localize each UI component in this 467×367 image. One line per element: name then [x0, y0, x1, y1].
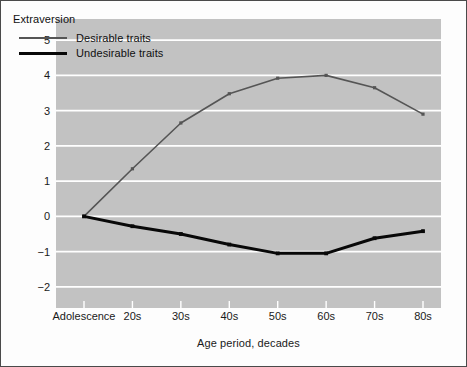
- y-tick-label: 2: [44, 140, 50, 152]
- data-point: [227, 243, 231, 247]
- legend-item-undesirable: Undesirable traits: [13, 47, 163, 59]
- data-point: [228, 92, 231, 95]
- y-tick-label: 4: [44, 69, 50, 81]
- x-axis-label: Age period, decades: [56, 337, 441, 349]
- legend-title: Extraversion: [13, 13, 163, 25]
- data-point: [179, 232, 183, 236]
- data-point: [373, 236, 377, 240]
- y-tick-label: 3: [44, 105, 50, 117]
- legend-label-desirable: Desirable traits: [76, 32, 151, 44]
- x-tick-label: 20s: [124, 310, 142, 322]
- x-tick-label: Adolescence: [53, 310, 116, 322]
- legend-line-desirable-icon: [19, 37, 67, 39]
- x-tick-label: 60s: [317, 310, 335, 322]
- legend-line-undesirable-icon: [19, 52, 67, 55]
- data-point: [421, 229, 425, 233]
- plot-svg: [56, 19, 441, 308]
- legend-label-undesirable: Undesirable traits: [76, 47, 163, 59]
- legend-item-desirable: Desirable traits: [13, 32, 163, 44]
- y-tick-label: −2: [37, 281, 50, 293]
- data-point: [324, 251, 328, 255]
- y-tick-label: −1: [37, 246, 50, 258]
- y-tick-label: 0: [44, 210, 50, 222]
- data-point: [276, 251, 280, 255]
- data-point: [131, 224, 135, 228]
- data-point: [179, 121, 182, 124]
- y-tick-label: 1: [44, 175, 50, 187]
- data-point: [421, 113, 424, 116]
- data-point: [131, 167, 134, 170]
- x-tick-label: 40s: [220, 310, 238, 322]
- x-tick-label: 30s: [172, 310, 190, 322]
- legend: Extraversion Desirable traits Undesirabl…: [13, 13, 163, 62]
- data-point: [276, 77, 279, 80]
- x-tick-label: 70s: [366, 310, 384, 322]
- chart-figure: Perceived change over adulthood 543210−1…: [0, 0, 467, 367]
- data-point: [325, 74, 328, 77]
- data-point: [82, 214, 86, 218]
- plot-area: 543210−1−2Adolescence20s30s40s50s60s70s8…: [56, 19, 441, 308]
- series-line-undesirable: [84, 216, 423, 253]
- x-tick-label: 50s: [269, 310, 287, 322]
- x-tick-label: 80s: [414, 310, 432, 322]
- data-point: [373, 86, 376, 89]
